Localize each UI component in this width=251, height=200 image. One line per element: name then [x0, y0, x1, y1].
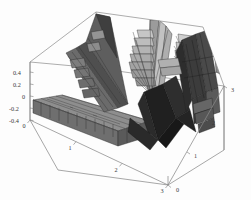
plot-canvas: 0.4 0.2 0 -0.2 -0.4 0 1 2 3 0 1 2 3 [0, 0, 251, 200]
surface-plot-3d-figure: 0.4 0.2 0 -0.2 -0.4 0 1 2 3 0 1 2 3 [0, 0, 251, 200]
z-tick-label: -0.4 [9, 117, 19, 124]
y-tick-label: 1 [194, 152, 197, 159]
x-tick-label: 0 [22, 122, 25, 129]
surface-left-ridge [66, 14, 128, 112]
surface-back-ledge [158, 58, 182, 76]
z-tick-label: 0.2 [13, 81, 21, 88]
z-tick-label: 0.4 [13, 69, 21, 76]
z-tick-labels: 0.4 0.2 0 -0.2 -0.4 [9, 69, 25, 124]
z-axis-ticks [30, 72, 34, 121]
x-tick-label: 1 [68, 144, 71, 151]
x-tick-label: 2 [114, 166, 117, 173]
x-tick-label: 3 [160, 187, 163, 194]
y-tick-label: 2 [212, 119, 215, 126]
y-tick-label: 3 [231, 86, 234, 93]
z-tick-label: 0 [22, 93, 25, 100]
surface-mesh [33, 14, 224, 150]
z-tick-label: -0.2 [9, 105, 19, 112]
y-tick-label: 0 [176, 186, 179, 193]
surface-far-right-sliver [214, 38, 224, 76]
